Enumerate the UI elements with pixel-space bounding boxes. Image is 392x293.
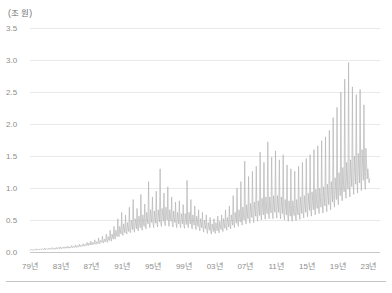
- x-axis-tick-label: 11년: [268, 260, 283, 271]
- x-axis-tick-label: 95년: [145, 260, 161, 271]
- x-axis-tick-label: 23년: [361, 260, 377, 271]
- x-axis-tick-label: 83년: [53, 260, 69, 271]
- y-axis-tick-label: 3.0: [6, 56, 17, 65]
- y-axis-tick-label: 1.0: [6, 184, 17, 193]
- x-axis-tick-label: 19년: [330, 260, 346, 271]
- bottom-divider: [6, 281, 386, 282]
- x-axis-tick-label: 03년: [207, 260, 223, 271]
- y-axis-tick-label: 3.5: [6, 24, 17, 33]
- x-axis-tick-label: 91년: [114, 260, 130, 271]
- y-axis-tick-label: 1.5: [6, 152, 17, 161]
- x-axis-tick-label: 87년: [84, 260, 100, 271]
- x-axis-tick-label: 15년: [299, 260, 315, 271]
- y-axis-tick-label: 0.5: [6, 216, 17, 225]
- y-axis-tick-label: 0.0: [6, 248, 17, 257]
- y-axis-ticks: 0.00.51.01.52.02.53.03.5: [0, 0, 392, 293]
- y-axis-tick-label: 2.5: [6, 88, 17, 97]
- chart-figure: (조 원) 0.00.51.01.52.02.53.03.5 79년83년87년…: [0, 0, 392, 293]
- x-axis-tick-label: 99년: [176, 260, 192, 271]
- y-axis-tick-label: 2.0: [6, 120, 17, 129]
- x-axis-tick-label: 79년: [22, 260, 38, 271]
- x-axis-tick-label: 07년: [237, 260, 253, 271]
